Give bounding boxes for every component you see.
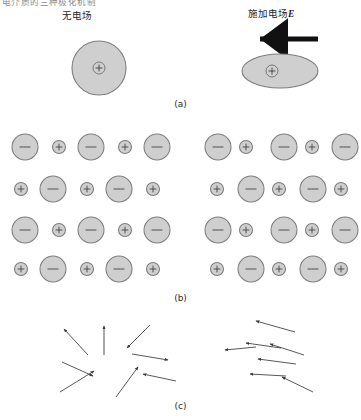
anion-circle [40, 176, 66, 202]
panel-caption-c: (c) [0, 401, 361, 411]
anion-circle [40, 256, 66, 282]
polarization-mechanisms-figure: 电介质的三种极化机制 无电场 施加电场E [0, 0, 361, 420]
anion-circle [300, 176, 326, 202]
lattice-row [12, 134, 170, 160]
anion-circle [300, 256, 326, 282]
dipole-arrow-icon [143, 374, 176, 381]
cation-circle [15, 263, 28, 276]
cation-circle [335, 183, 348, 196]
panel-c-orientation-polarization [60, 321, 313, 397]
anion-circle [12, 134, 38, 160]
electron-cloud-ellipse [242, 54, 318, 88]
cation-circle [273, 263, 286, 276]
cation-circle [15, 183, 28, 196]
anion-circle [238, 256, 264, 282]
dipole-arrow-icon [116, 367, 138, 397]
anion-circle [332, 134, 358, 160]
dipole-arrow-icon [270, 344, 304, 355]
lattice-row [15, 256, 160, 282]
dipole-arrow-icon [127, 325, 150, 348]
dipole-arrow-icon [62, 362, 93, 376]
lattice-row [12, 217, 170, 243]
anion-circle [12, 217, 38, 243]
anion-circle [144, 134, 170, 160]
anion-circle [271, 134, 297, 160]
panel-b-ionic-polarization [12, 134, 358, 282]
anion-circle [106, 256, 132, 282]
panel-a-electronic-polarization [72, 39, 318, 95]
anion-circle [78, 134, 104, 160]
cation-circle [119, 224, 132, 237]
lattice-row [15, 176, 160, 202]
cation-circle [147, 263, 160, 276]
lattice-row [205, 217, 358, 243]
cation-circle [53, 224, 66, 237]
anion-circle [271, 217, 297, 243]
cation-circle [306, 224, 319, 237]
cation-circle [81, 183, 94, 196]
cation-circle [211, 263, 224, 276]
panel-a-right-atom [242, 54, 318, 88]
cation-circle [306, 141, 319, 154]
lattice-polarized [205, 134, 358, 282]
dipole-arrow-icon [64, 329, 88, 355]
cation-circle [53, 141, 66, 154]
lattice-row [205, 134, 358, 160]
dipole-arrow-icon [250, 374, 286, 376]
panel-caption-a: (a) [0, 99, 361, 109]
dipoles-aligned [225, 321, 313, 392]
cation-circle [273, 183, 286, 196]
anion-circle [78, 217, 104, 243]
dipole-arrow-icon [60, 371, 94, 392]
dipole-arrow-icon [256, 321, 295, 332]
lattice-unpolarized [12, 134, 170, 282]
anion-circle [332, 217, 358, 243]
lattice-row [211, 256, 348, 282]
anion-circle [205, 134, 231, 160]
cation-circle [240, 224, 253, 237]
dipole-arrow-icon [258, 359, 296, 364]
panel-a-left-atom [72, 41, 126, 95]
cation-circle [211, 183, 224, 196]
cation-circle [240, 141, 253, 154]
dipole-arrow-icon [282, 377, 313, 392]
anion-circle [205, 217, 231, 243]
anion-circle [106, 176, 132, 202]
anion-circle [144, 217, 170, 243]
dipole-arrow-icon [225, 347, 256, 350]
panel-caption-b: (b) [0, 293, 361, 303]
dipoles-random [60, 325, 176, 397]
cation-circle [81, 263, 94, 276]
cation-circle [147, 183, 160, 196]
figure-canvas [0, 0, 361, 420]
cation-circle [335, 263, 348, 276]
dipole-arrow-icon [132, 354, 168, 360]
cation-circle [119, 141, 132, 154]
anion-circle [238, 176, 264, 202]
lattice-row [211, 176, 348, 202]
